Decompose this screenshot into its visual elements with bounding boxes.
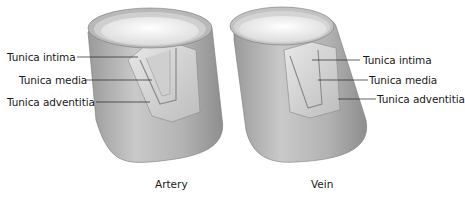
artery-label-tunica-media: Tunica media [19, 74, 87, 86]
artery-caption: Artery [155, 178, 188, 190]
artery-lumen [101, 17, 199, 45]
vein-lumen [239, 16, 327, 42]
vein-illustration [230, 7, 376, 162]
vein-caption: Vein [311, 178, 333, 190]
artery-label-tunica-intima: Tunica intima [7, 51, 76, 63]
vein-label-tunica-adventitia: Tunica adventitia [377, 93, 465, 105]
vein-label-tunica-media: Tunica media [369, 74, 437, 86]
artery-label-tunica-adventitia: Tunica adventitia [7, 96, 95, 108]
artery-illustration [77, 8, 223, 162]
vein-label-tunica-intima: Tunica intima [363, 54, 432, 66]
